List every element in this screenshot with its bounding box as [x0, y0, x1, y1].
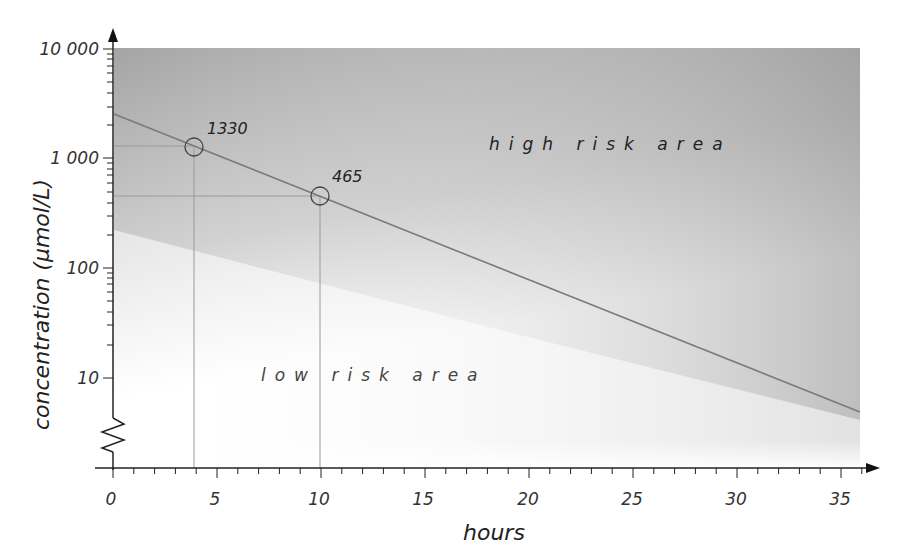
x-tick-labels: 0 5 10 15 20 25 30 35	[106, 489, 851, 509]
svg-text:10 000: 10 000	[40, 39, 99, 59]
svg-text:10: 10	[308, 489, 330, 509]
point-label-1330: 1330	[207, 119, 248, 138]
svg-text:1 000: 1 000	[50, 148, 99, 168]
svg-text:35: 35	[829, 489, 851, 509]
svg-text:15: 15	[412, 489, 434, 509]
y-ticks	[103, 49, 113, 378]
x-axis-arrow-icon	[866, 463, 880, 473]
x-axis-title: hours	[463, 520, 525, 545]
svg-text:30: 30	[725, 489, 747, 509]
svg-text:0: 0	[106, 489, 117, 509]
high-risk-label: high risk area	[489, 134, 732, 154]
svg-text:20: 20	[517, 489, 539, 509]
svg-text:10: 10	[77, 368, 99, 388]
svg-text:25: 25	[621, 489, 643, 509]
point-label-465: 465	[332, 167, 363, 186]
nomogram-chart: 1330 465 high risk area low risk area 10…	[0, 0, 912, 556]
low-risk-label: low risk area	[261, 365, 487, 385]
high-risk-shading	[114, 48, 860, 470]
y-axis-arrow-icon	[108, 28, 118, 42]
y-axis-title: concentration (µmol/L)	[29, 179, 54, 430]
svg-text:100: 100	[67, 258, 99, 278]
svg-text:5: 5	[210, 489, 221, 509]
